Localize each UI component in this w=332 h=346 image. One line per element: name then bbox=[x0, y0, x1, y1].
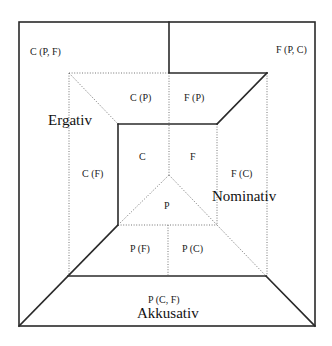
label-c-pf: C (P, F) bbox=[30, 46, 61, 58]
label-f: F bbox=[190, 151, 196, 162]
diag-bottom-right-dotted bbox=[217, 225, 266, 276]
label-f-p: F (P) bbox=[184, 92, 204, 104]
diag-top-right-solid bbox=[217, 73, 267, 124]
label-p: P bbox=[164, 200, 170, 211]
label-f-pc: F (P, C) bbox=[276, 44, 307, 56]
p-triangle-left bbox=[118, 175, 169, 225]
case-nominativ: Nominativ bbox=[212, 188, 277, 204]
case-akkusativ: Akkusativ bbox=[137, 305, 199, 321]
label-p-c: P (C) bbox=[182, 243, 203, 255]
case-diagram: C (P, F) F (P, C) C (P) F (P) C F C (F) … bbox=[0, 0, 332, 346]
label-c-p: C (P) bbox=[130, 92, 151, 104]
p-triangle-right bbox=[169, 175, 217, 225]
label-c: C bbox=[139, 151, 146, 162]
label-p-f: P (F) bbox=[130, 243, 150, 255]
diag-bottom-right-solid bbox=[266, 276, 315, 326]
label-f-c: F (C) bbox=[231, 168, 252, 180]
label-c-f: C (F) bbox=[82, 168, 103, 180]
case-ergativ: Ergativ bbox=[48, 112, 92, 128]
